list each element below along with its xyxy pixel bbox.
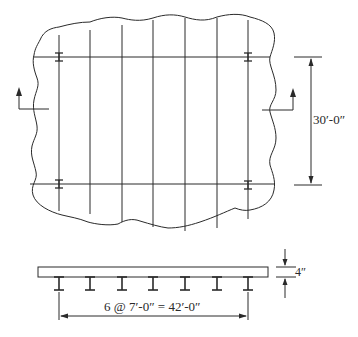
thick-dim-arrow-top	[283, 259, 288, 266]
left-section-arrowhead	[16, 87, 22, 96]
framing-diagram	[0, 0, 358, 337]
section-girder-7	[243, 277, 253, 290]
section-girder-6	[212, 277, 222, 290]
span-dim-arrow-right	[239, 314, 247, 319]
section-girder-3	[117, 277, 127, 290]
section-girder-1	[54, 277, 64, 290]
floor-boundary-outline	[31, 14, 276, 228]
span-dim-arrow-left	[60, 314, 68, 319]
section-girder-2	[85, 277, 95, 290]
right-section-arrow	[262, 93, 293, 110]
girder-spacing-label: 6 @ 7′-0″ = 42′-0″	[104, 300, 200, 313]
height-dim-arrow-bottom	[309, 176, 314, 184]
section-girder-5	[180, 277, 190, 290]
i-beam-symbol-bottom-right	[244, 181, 252, 189]
section-girders	[54, 277, 253, 290]
thick-dim-arrow-bottom	[283, 278, 288, 285]
height-dim-arrow-top	[309, 58, 314, 66]
slab-section	[38, 267, 268, 277]
right-section-arrowhead	[290, 88, 296, 97]
slab-thickness-label: 4″	[295, 266, 306, 278]
span-height-label: 30′-0″	[313, 113, 345, 126]
section-girder-4	[148, 277, 158, 290]
